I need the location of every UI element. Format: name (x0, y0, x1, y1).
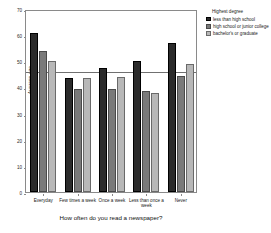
y-axis-tick: 10 (10, 168, 24, 169)
y-axis-tick-label: 20 (10, 138, 24, 143)
bar[interactable] (177, 76, 185, 192)
legend-item[interactable]: less than high school (206, 17, 270, 22)
legend-item[interactable]: bachelor's or graduate (206, 31, 270, 36)
y-axis-tick-label: 50 (10, 60, 24, 65)
bar[interactable] (30, 33, 38, 192)
bar[interactable] (99, 68, 107, 192)
y-axis-tick: 30 (10, 116, 24, 117)
x-axis-tick (181, 194, 182, 196)
bar-chart: Average age 010203040506070 EverydayFew … (0, 0, 271, 233)
bar[interactable] (142, 91, 150, 192)
bar[interactable] (65, 78, 73, 192)
bar[interactable] (74, 89, 82, 192)
legend-item[interactable]: high school or junior college (206, 24, 270, 29)
bar-group (29, 33, 57, 192)
x-axis-tick (43, 194, 44, 196)
y-axis-tick: 20 (10, 142, 24, 143)
bar[interactable] (133, 61, 141, 192)
legend-entries: less than high schoolhigh school or juni… (206, 17, 270, 37)
y-axis-tick-label: 60 (10, 34, 24, 39)
bar-group (132, 61, 160, 192)
y-axis-tick-label: 0 (10, 191, 24, 196)
x-axis-tick (146, 194, 147, 196)
y-axis-tick-label: 30 (10, 112, 24, 117)
y-axis-tick: 70 (10, 11, 24, 12)
bar[interactable] (117, 77, 125, 192)
legend-item-label: bachelor's or graduate (213, 31, 258, 36)
y-axis-tick-label: 10 (10, 164, 24, 169)
y-axis-tick-label: 70 (10, 8, 24, 13)
y-axis-tick: 0 (10, 194, 24, 195)
x-axis-title: How often do you read a newspaper? (25, 214, 197, 221)
bar[interactable] (168, 43, 176, 192)
bar-group (167, 43, 195, 192)
bar[interactable] (83, 78, 91, 192)
x-axis-tick (112, 194, 113, 196)
legend-swatch-icon (206, 17, 211, 22)
bar-group (64, 78, 92, 192)
plot-area: Average age 010203040506070 EverydayFew … (25, 10, 197, 193)
y-axis-tick: 40 (10, 89, 24, 90)
bar[interactable] (48, 61, 56, 192)
bar[interactable] (151, 93, 159, 192)
bars-layer (26, 11, 196, 192)
legend: Highest degree less than high schoolhigh… (206, 9, 270, 38)
legend-swatch-icon (206, 24, 211, 29)
legend-swatch-icon (206, 31, 211, 36)
y-axis-tick: 60 (10, 37, 24, 38)
bar[interactable] (108, 89, 116, 192)
bar-group (98, 68, 126, 192)
legend-item-label: less than high school (213, 17, 255, 22)
y-axis-tick: 50 (10, 63, 24, 64)
x-axis-category-label: Never (158, 198, 204, 203)
y-axis-tick-label: 40 (10, 86, 24, 91)
legend-item-label: high school or junior college (213, 24, 269, 29)
x-axis-tick (78, 194, 79, 196)
bar[interactable] (186, 64, 194, 192)
bar[interactable] (39, 51, 47, 192)
legend-title: Highest degree (212, 9, 270, 14)
